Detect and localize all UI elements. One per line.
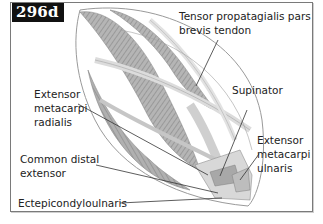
label-line: radialis [34, 115, 87, 129]
label-extensor-metacarpi-ulnaris: Extensor metacarpi ulnaris [257, 133, 310, 175]
leader-ecu [120, 198, 222, 203]
label-line: ulnaris [257, 161, 310, 175]
label-tensor-propatagialis: Tensor propatagialis pars brevis tendon [179, 9, 311, 37]
figure-number-badge: 296d [12, 3, 64, 22]
label-line: Extensor [34, 87, 87, 101]
label-ectepicondyloulnaris: Ectepicondyloulnaris [18, 196, 127, 210]
label-line: metacarpi [34, 101, 87, 115]
label-line: Ectepicondyloulnaris [18, 196, 127, 210]
label-line: brevis tendon [179, 23, 311, 37]
label-line: Tensor propatagialis pars [179, 9, 311, 23]
label-line: extensor [20, 166, 99, 180]
label-line: metacarpi [257, 147, 310, 161]
label-supinator: Supinator [232, 83, 283, 97]
label-line: Supinator [232, 83, 283, 97]
label-line: Extensor [257, 133, 310, 147]
label-extensor-metacarpi-radialis: Extensor metacarpi radialis [34, 87, 87, 129]
label-line: Common distal [20, 152, 99, 166]
label-common-distal-extensor: Common distal extensor [20, 152, 99, 180]
